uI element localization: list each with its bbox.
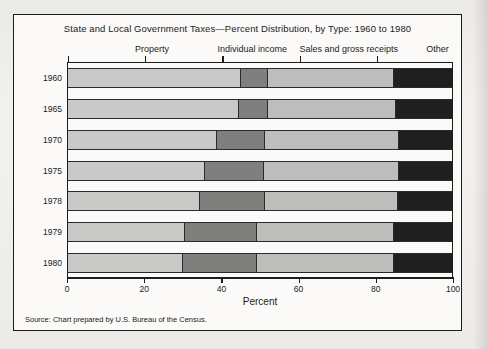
stacked-bar-1960 bbox=[68, 68, 452, 88]
bar-segment bbox=[398, 162, 452, 180]
bar-segment bbox=[263, 162, 398, 180]
bar-segment bbox=[240, 69, 267, 87]
stacked-bar-1965 bbox=[68, 99, 452, 119]
stacked-bar-1970 bbox=[68, 130, 452, 150]
bar-segment bbox=[398, 131, 452, 149]
y-tick-label-1980: 1980 bbox=[43, 258, 62, 268]
scan-edge-artifact bbox=[475, 0, 488, 349]
y-tick-label-1960: 1960 bbox=[43, 73, 62, 83]
source-note: Source: Chart prepared by U.S. Bureau of… bbox=[25, 315, 207, 324]
stacked-bar-1979 bbox=[68, 222, 452, 242]
y-tick-label-1975: 1975 bbox=[43, 166, 62, 176]
stacked-bar-1978 bbox=[68, 191, 452, 211]
plot-top-tick bbox=[300, 56, 301, 63]
bar-segment bbox=[68, 223, 184, 241]
chart-row: 1965 bbox=[68, 99, 452, 119]
series-header-other: Other bbox=[426, 44, 449, 54]
bar-segment bbox=[68, 192, 199, 210]
bar-segment bbox=[68, 69, 240, 87]
bar-segment bbox=[68, 131, 216, 149]
x-tick-label: 80 bbox=[371, 284, 380, 294]
x-tick bbox=[453, 277, 454, 283]
bar-segment bbox=[393, 69, 452, 87]
chart-row: 1979 bbox=[68, 222, 452, 242]
stacked-bar-1975 bbox=[68, 161, 452, 181]
stacked-bar-1980 bbox=[68, 253, 452, 273]
plot-top-tick bbox=[145, 56, 146, 63]
x-tick bbox=[299, 277, 300, 283]
bar-segment bbox=[264, 192, 398, 210]
x-tick bbox=[67, 277, 68, 283]
bar-segment bbox=[256, 223, 393, 241]
x-tick bbox=[376, 277, 377, 283]
bar-segment bbox=[264, 131, 398, 149]
y-tick-label-1965: 1965 bbox=[43, 104, 62, 114]
chart-row: 1978 bbox=[68, 191, 452, 211]
x-tick-label: 60 bbox=[294, 284, 303, 294]
bar-segment bbox=[182, 254, 256, 272]
chart-row: 1960 bbox=[68, 68, 452, 88]
bar-segment bbox=[184, 223, 256, 241]
chart-row: 1980 bbox=[68, 253, 452, 273]
chart-panel: State and Local Government Taxes—Percent… bbox=[13, 14, 462, 331]
y-tick-label-1979: 1979 bbox=[43, 227, 62, 237]
series-header-individual-income: Individual income bbox=[217, 44, 287, 54]
x-tick bbox=[221, 277, 222, 283]
plot-top-tick bbox=[222, 56, 223, 63]
bar-segment bbox=[238, 100, 267, 118]
y-tick-label-1970: 1970 bbox=[43, 135, 62, 145]
bar-segment bbox=[267, 100, 395, 118]
bar-segment bbox=[397, 192, 452, 210]
x-tick-label: 20 bbox=[139, 284, 148, 294]
series-header-property: Property bbox=[135, 44, 169, 54]
bar-segment bbox=[68, 100, 238, 118]
series-header-sales-and-gross-receipts: Sales and gross receipts bbox=[299, 44, 398, 54]
x-tick-label: 40 bbox=[217, 284, 226, 294]
x-tick-label: 100 bbox=[446, 284, 460, 294]
x-tick bbox=[144, 277, 145, 283]
bar-segment bbox=[199, 192, 264, 210]
bar-segment bbox=[204, 162, 263, 180]
plot-area: 1960196519701975197819791980 bbox=[67, 62, 453, 277]
bar-segment bbox=[393, 254, 452, 272]
plot-inner: 1960196519701975197819791980 bbox=[68, 63, 452, 277]
bar-segment bbox=[267, 69, 393, 87]
y-tick-label-1978: 1978 bbox=[43, 196, 62, 206]
chart-title: State and Local Government Taxes—Percent… bbox=[14, 23, 461, 34]
chart-row: 1975 bbox=[68, 161, 452, 181]
plot-top-tick bbox=[68, 56, 69, 63]
bar-segment bbox=[68, 254, 182, 272]
bar-segment bbox=[256, 254, 393, 272]
chart-row: 1970 bbox=[68, 130, 452, 150]
series-header-row: PropertyIndividual incomeSales and gross… bbox=[14, 44, 461, 58]
plot-top-tick bbox=[377, 56, 378, 63]
x-axis-title: Percent bbox=[67, 296, 453, 307]
x-axis: 020406080100 bbox=[67, 277, 453, 279]
screenshot-page: State and Local Government Taxes—Percent… bbox=[0, 0, 488, 349]
x-tick-label: 0 bbox=[65, 284, 70, 294]
bar-segment bbox=[216, 131, 264, 149]
bar-segment bbox=[393, 223, 452, 241]
bar-segment bbox=[395, 100, 452, 118]
bar-segment bbox=[68, 162, 204, 180]
